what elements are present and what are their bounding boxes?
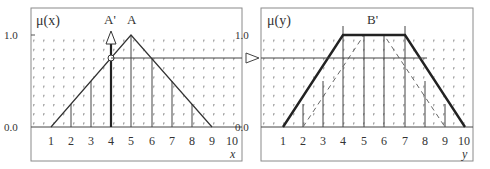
left-x-axis-label: x	[229, 147, 236, 161]
left-x-tick: 3	[88, 134, 94, 148]
right-x-axis-label: y	[461, 147, 468, 161]
right-x-tick: 2	[300, 134, 306, 148]
right-x-tick: 4	[340, 134, 346, 148]
right-x-ticks: 1 2 3 4 5 6 7 8 9 10	[280, 134, 470, 148]
set-A-label: A	[127, 12, 137, 27]
right-y-tick-0: 0.0	[235, 121, 249, 133]
right-x-tick: 10	[458, 134, 470, 148]
right-y-tick-1: 1.0	[235, 29, 249, 41]
input-label: A'	[104, 12, 116, 27]
output-label: B'	[367, 12, 378, 27]
left-x-tick: 1	[48, 134, 54, 148]
left-x-ticks: 1 2 3 4 5 6 7 8 9 10	[48, 134, 238, 148]
right-x-tick: 1	[280, 134, 286, 148]
left-x-tick: 7	[169, 134, 175, 148]
right-y-axis-label: μ(y)	[267, 13, 291, 29]
left-x-tick: 2	[68, 134, 74, 148]
fuzzy-inference-diagram: 1.0 0.0 μ(x) A' A 1 2 3 4 5 6 7	[0, 0, 490, 169]
left-x-tick: 10	[226, 134, 238, 148]
right-chart: 1.0 0.0 μ(y) B' 1 2 3 4 5 6 7 8 9 10 y	[235, 8, 473, 161]
right-x-tick: 8	[422, 134, 428, 148]
left-x-tick: 5	[128, 134, 134, 148]
right-x-tick: 9	[442, 134, 448, 148]
left-x-tick: 6	[149, 134, 155, 148]
right-x-tick: 3	[320, 134, 326, 148]
left-y-tick-1: 1.0	[4, 29, 18, 41]
left-grid	[33, 35, 241, 127]
right-grid	[263, 35, 472, 127]
left-y-axis-label: μ(x)	[36, 13, 60, 29]
left-x-tick: 9	[209, 134, 215, 148]
left-x-tick: 8	[189, 134, 195, 148]
left-y-tick-0: 0.0	[4, 121, 18, 133]
left-chart: 1.0 0.0 μ(x) A' A 1 2 3 4 5 6 7	[4, 8, 242, 161]
right-x-tick: 6	[381, 134, 387, 148]
right-arrow-icon	[246, 53, 259, 63]
right-x-tick: 7	[402, 134, 408, 148]
right-x-tick: 5	[361, 134, 367, 148]
left-x-tick: 4	[108, 134, 114, 148]
